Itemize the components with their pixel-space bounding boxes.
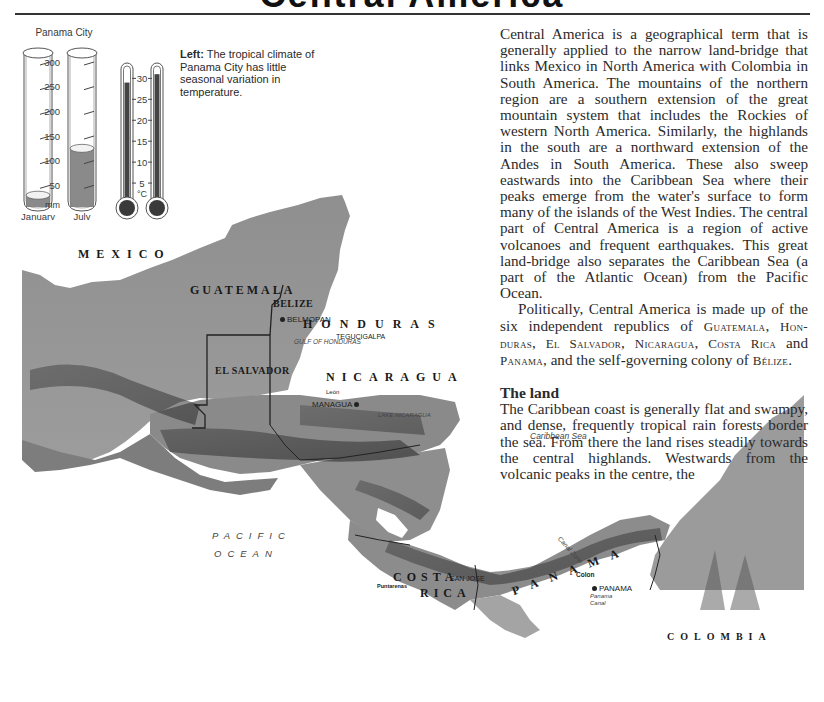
- land-panama-south: [470, 595, 540, 638]
- label-guatemala: GUATEMALA: [190, 283, 295, 298]
- label-rica: RICA: [420, 586, 471, 601]
- city-dot: [592, 586, 597, 591]
- label-mexico: MEXICO: [78, 247, 171, 262]
- page-title: Central America: [0, 0, 824, 14]
- article-paragraph-2: Politically, Central America is made up …: [500, 301, 808, 369]
- article-body: Central America is a geographical term t…: [500, 26, 808, 482]
- rain-gauge-rim: [67, 48, 97, 58]
- temp-tick-label: 10: [137, 157, 148, 168]
- rain-tick-mark: [84, 62, 94, 65]
- label-pacific: PACIFIC: [212, 530, 291, 541]
- page-title-strip: Central America: [0, 0, 824, 14]
- section-heading-the-land: The land: [500, 384, 808, 401]
- temp-tick-label: 5: [139, 178, 144, 189]
- rain-tick-mark: [84, 136, 94, 139]
- label-el-salvador: EL SALVADOR: [215, 365, 290, 376]
- article-paragraph-3: The Caribbean coast is generally flat an…: [500, 401, 808, 482]
- chart-city-label: Panama City: [35, 27, 92, 38]
- infographic-caption: Left: The tropical climate of Panama Cit…: [180, 48, 330, 98]
- label-san-jose: SAN JOSE: [450, 575, 485, 582]
- label-nicaragua: NICARAGUA: [326, 370, 464, 385]
- article-paragraph-1: Central America is a geographical term t…: [500, 26, 808, 301]
- label-lake-nicaragua: LAKE NICARAGUA: [378, 412, 431, 418]
- label-panama-canal: PanamaCanal: [590, 593, 612, 607]
- rain-tick-label: 300: [44, 57, 60, 68]
- rain-tick-label: 150: [44, 131, 60, 142]
- label-leon: León: [326, 389, 339, 395]
- label-honduras: HONDURAS: [303, 317, 444, 332]
- label-belize: BELIZE: [273, 298, 313, 309]
- city-dot: [280, 317, 285, 322]
- temp-tick-label: 15: [137, 136, 148, 147]
- rain-tick-label: 250: [44, 81, 60, 92]
- temp-tick-label: 30: [137, 73, 148, 84]
- rain-tick-mark: [84, 87, 94, 90]
- temp-tick-label: 25: [137, 94, 148, 105]
- rain-tick-mark: [84, 111, 94, 114]
- label-tegucigalpa: TEGUCIGALPA: [336, 333, 385, 340]
- label-panama-city: PANAMA: [592, 584, 632, 593]
- label-managua: MANAGUA: [312, 400, 361, 409]
- rain-tick-label: 100: [44, 155, 60, 166]
- rain-level-surface: [70, 144, 94, 152]
- caption-lead: Left:: [180, 48, 204, 60]
- label-ocean: OCEAN: [214, 548, 278, 559]
- city-dot: [354, 402, 359, 407]
- temp-tick-label: 20: [137, 115, 148, 126]
- label-colombia: COLOMBIA: [667, 631, 772, 642]
- rain-tick-label: 200: [44, 106, 60, 117]
- label-puntarenas: Puntarenas: [377, 583, 407, 589]
- title-rule: [15, 13, 810, 15]
